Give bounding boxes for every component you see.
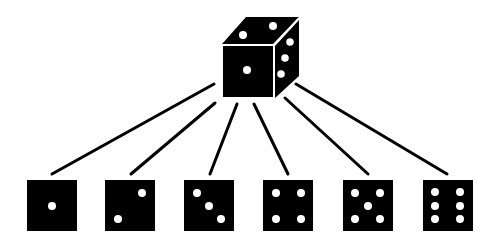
pip [431, 188, 439, 196]
pip [272, 215, 280, 223]
pip [456, 202, 464, 210]
pip [351, 215, 359, 223]
connector-to-four [254, 104, 288, 174]
pip [205, 202, 213, 210]
pip [281, 54, 289, 62]
pip [277, 70, 285, 78]
connector-to-two [131, 103, 215, 174]
pip [431, 215, 439, 223]
connector-lines [52, 84, 447, 174]
die-face-five-icon [343, 180, 393, 231]
pip [376, 215, 384, 223]
connector-to-three [210, 104, 237, 174]
dice-outcome-diagram [0, 0, 496, 250]
pip [138, 189, 146, 197]
pip [351, 189, 359, 197]
pip [217, 215, 225, 223]
pip [272, 189, 280, 197]
pip [286, 38, 294, 46]
pip [376, 189, 384, 197]
connector-to-five [285, 98, 368, 174]
pip [269, 22, 277, 30]
pip [193, 189, 201, 197]
diagram-svg [0, 0, 496, 250]
pip [239, 31, 247, 39]
die-face-two-icon [105, 180, 155, 231]
pip [114, 215, 122, 223]
die-face-three-icon [184, 180, 234, 231]
pip [456, 215, 464, 223]
die-face-six-icon [423, 180, 473, 231]
die-face-one-icon [27, 180, 77, 231]
pip [48, 202, 56, 210]
pip [456, 188, 464, 196]
pip [243, 66, 251, 74]
pip [364, 202, 372, 210]
pip [297, 215, 305, 223]
die-face-four-icon [263, 180, 313, 231]
pip [297, 189, 305, 197]
connector-to-one [52, 84, 214, 174]
source-die-icon [222, 17, 299, 98]
pip [431, 202, 439, 210]
